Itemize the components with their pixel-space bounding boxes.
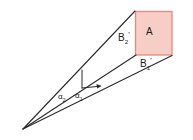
- label-side-b2-prime-mark: ': [128, 30, 130, 39]
- geometry-figure: A B2' B1' α2 α1: [0, 0, 193, 140]
- label-angle-alpha2: α2: [58, 93, 65, 104]
- label-side-b2-prime-sub: 2: [125, 38, 128, 45]
- label-angle-alpha1: α1: [75, 92, 82, 103]
- label-side-b2-prime-base: B: [118, 32, 125, 43]
- label-side-b1-prime: B1': [140, 57, 152, 72]
- area-rectangle: [136, 12, 173, 56]
- label-angle-alpha2-sub: 2: [63, 98, 66, 103]
- upper-ray-line: [23, 11, 135, 129]
- figure-canvas: [0, 0, 193, 140]
- label-side-b2-prime: B2': [118, 31, 130, 46]
- label-side-b1-prime-mark: ': [150, 56, 152, 65]
- label-angle-alpha1-sub: 1: [80, 97, 83, 102]
- label-area-A: A: [146, 27, 153, 37]
- label-area-A-base: A: [146, 26, 153, 37]
- label-side-b1-prime-base: B: [140, 58, 147, 69]
- inner-horizontal-arrowhead: [97, 84, 102, 88]
- label-side-b1-prime-sub: 1: [147, 64, 150, 71]
